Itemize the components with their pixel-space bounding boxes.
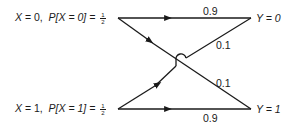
input-x1-prob: P[X = 1] = <box>49 102 96 114</box>
output-y0-label: Y = 0 <box>256 13 281 24</box>
input-x0-prob: P[X = 0] = <box>49 11 96 23</box>
input-x1-var: X <box>15 102 22 114</box>
prob-x1-y0: 0.1 <box>216 40 231 51</box>
input-x1-label: X = 1, P[X = 1] = 12 <box>15 103 106 116</box>
edge-x0-y1 <box>118 18 251 109</box>
input-x1-fraction: 12 <box>100 103 105 116</box>
input-x0-value: 0 <box>34 11 40 23</box>
input-x0-fraction: 12 <box>100 12 105 25</box>
input-x0-label: X = 0, P[X = 0] = 12 <box>15 12 106 25</box>
output-y1-label: Y = 1 <box>256 104 281 115</box>
prob-x0-y1: 0.1 <box>216 78 231 89</box>
prob-x1-y1: 0.9 <box>203 113 218 124</box>
prob-x0-y0: 0.9 <box>203 6 218 17</box>
input-x0-var: X <box>15 11 22 23</box>
input-x1-value: 1 <box>34 102 40 114</box>
